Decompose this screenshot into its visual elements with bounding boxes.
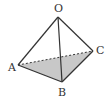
shaded-face-abc: [18, 51, 93, 82]
edge-oa: [18, 17, 58, 65]
vertex-label-b: B: [58, 86, 66, 99]
vertex-label-a: A: [7, 61, 17, 74]
vertex-label-c: C: [96, 44, 104, 57]
edge-oc: [58, 17, 93, 51]
vertex-label-o: O: [54, 2, 63, 15]
tetrahedron-diagram: O A B C: [0, 0, 106, 99]
